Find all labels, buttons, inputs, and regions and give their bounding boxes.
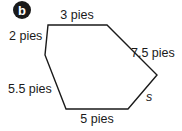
hexagon-outline [45, 25, 157, 109]
side-label-upper-right: 7.5 pies [131, 46, 175, 60]
badge-letter: b [18, 3, 26, 18]
side-label-upper-left: 2 pies [9, 29, 42, 43]
hexagon-diagram: b 3 pies 7.5 pies s 5 pies 5.5 pies 2 pi… [0, 0, 182, 131]
side-label-top: 3 pies [60, 8, 93, 22]
badge: b [13, 1, 31, 19]
side-label-lower-right: s [146, 90, 152, 104]
side-label-bottom: 5 pies [80, 112, 113, 126]
side-label-lower-left: 5.5 pies [8, 82, 52, 96]
